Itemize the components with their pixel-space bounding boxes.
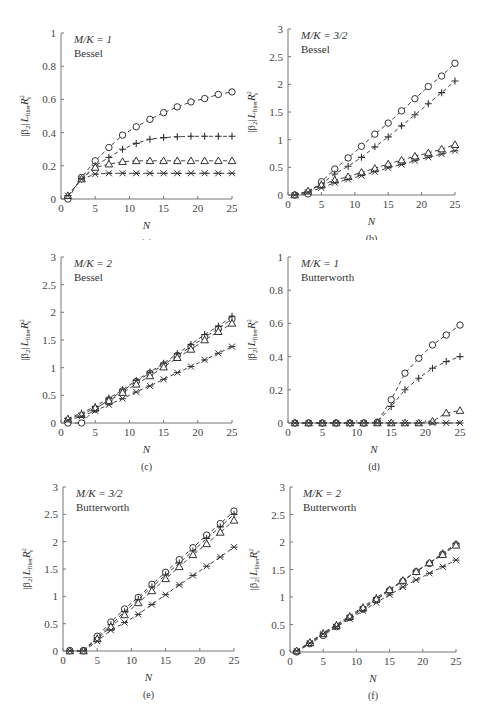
x-tick-label: 0 xyxy=(58,426,64,438)
circle-marker xyxy=(160,109,166,115)
star-marker xyxy=(146,383,153,389)
triangle-marker xyxy=(215,157,223,164)
y-tick-label: 2 xyxy=(51,306,57,318)
plus-marker xyxy=(443,358,450,365)
y-tick-label: 2 xyxy=(53,536,59,548)
x-tick-label: 15 xyxy=(160,654,172,666)
y-tick-label: 1 xyxy=(51,362,57,374)
star-marker xyxy=(189,573,196,579)
y-axis-label: |β2|LfiberR2s xyxy=(18,319,32,361)
panel-title: M/K = 2 xyxy=(73,257,112,269)
triangle-marker xyxy=(175,563,183,570)
plus-marker xyxy=(119,146,126,153)
circle-marker xyxy=(385,120,391,126)
star-marker xyxy=(160,376,167,382)
y-tick-label: 1 xyxy=(278,134,284,146)
star-marker xyxy=(119,170,126,176)
circle-marker xyxy=(133,124,139,130)
y-tick-label: 2 xyxy=(278,78,284,90)
plus-marker xyxy=(201,133,208,140)
x-tick-label: 25 xyxy=(451,655,463,667)
triangle-marker xyxy=(456,407,464,414)
star-marker xyxy=(439,564,446,570)
x-axis-label: N xyxy=(144,671,153,683)
chart-panel-e: 051015202500.511.522.53N(e)|β2|LfiberR2s… xyxy=(0,480,243,719)
plus-marker xyxy=(133,140,140,147)
plus-marker xyxy=(415,375,422,382)
panel-title: M/K = 2 xyxy=(302,487,341,499)
y-tick-label: 0 xyxy=(278,189,284,201)
star-marker xyxy=(452,148,459,154)
y-tick-label: 2 xyxy=(280,536,286,548)
x-tick-label: 10 xyxy=(124,202,136,214)
x-tick-label: 20 xyxy=(416,198,428,210)
x-tick-label: 25 xyxy=(229,654,241,666)
triangle-marker xyxy=(228,157,236,164)
star-marker xyxy=(443,420,450,426)
circle-marker xyxy=(345,155,351,161)
star-marker xyxy=(176,582,183,588)
circle-marker xyxy=(452,60,458,66)
x-tick-label: 15 xyxy=(158,202,170,214)
x-tick-label: 5 xyxy=(320,655,326,667)
star-marker xyxy=(399,584,406,590)
star-marker xyxy=(229,344,236,350)
circle-marker xyxy=(201,95,207,101)
y-tick-label: 1.5 xyxy=(44,563,58,575)
panel-title: M/K = 1 xyxy=(73,33,112,45)
x-tick-label: 10 xyxy=(124,426,136,438)
x-tick-label: 5 xyxy=(94,654,100,666)
x-axis-label: N xyxy=(367,215,376,227)
y-tick-label: 2.5 xyxy=(269,51,283,63)
plus-marker xyxy=(187,133,194,140)
panel-title: M/K = 3/2 xyxy=(300,29,348,41)
panel-title: M/K = 1 xyxy=(300,257,339,269)
y-tick-label: 1.5 xyxy=(269,106,283,118)
star-marker xyxy=(215,170,222,176)
x-tick-label: 5 xyxy=(92,426,98,438)
y-tick-label: 3 xyxy=(53,481,59,493)
star-marker xyxy=(229,170,236,176)
plus-marker xyxy=(452,78,459,85)
y-tick-label: 0.8 xyxy=(269,284,283,296)
star-marker xyxy=(135,611,142,617)
star-marker xyxy=(453,557,460,563)
series-plus xyxy=(291,78,458,199)
y-tick-label: 2.5 xyxy=(42,279,56,291)
y-tick-label: 0 xyxy=(280,646,286,658)
circle-marker xyxy=(188,99,194,105)
y-tick-label: 1 xyxy=(280,591,286,603)
circle-marker xyxy=(78,420,84,426)
y-tick-label: 3 xyxy=(280,481,286,493)
panel-subtitle: Butterworth xyxy=(76,501,130,513)
y-tick-label: 1 xyxy=(51,27,57,39)
star-marker xyxy=(148,602,155,608)
y-tick-label: 1 xyxy=(278,251,284,263)
x-tick-label: 5 xyxy=(92,202,98,214)
circle-marker xyxy=(106,144,112,150)
plus-marker xyxy=(146,136,153,143)
circle-marker xyxy=(438,73,444,79)
star-marker xyxy=(174,170,181,176)
circle-marker xyxy=(147,116,153,122)
x-tick-label: 20 xyxy=(194,654,206,666)
y-tick-label: 0 xyxy=(51,417,57,429)
plus-marker xyxy=(425,100,432,107)
y-tick-label: 0.5 xyxy=(271,619,285,631)
y-tick-label: 1.5 xyxy=(271,564,285,576)
series-triangle xyxy=(64,157,236,198)
x-tick-label: 0 xyxy=(60,654,66,666)
x-tick-label: 10 xyxy=(349,198,361,210)
y-tick-label: 0.4 xyxy=(42,127,56,139)
x-tick-label: 10 xyxy=(126,654,138,666)
star-marker xyxy=(160,170,167,176)
y-tick-label: 0.2 xyxy=(269,384,283,396)
circle-marker xyxy=(429,342,435,348)
star-marker xyxy=(201,357,208,363)
star-marker xyxy=(162,592,169,598)
star-marker xyxy=(119,396,126,402)
triangle-marker xyxy=(189,551,197,558)
circle-marker xyxy=(174,104,180,110)
x-tick-label: 0 xyxy=(285,198,291,210)
y-tick-label: 0.2 xyxy=(42,160,56,172)
